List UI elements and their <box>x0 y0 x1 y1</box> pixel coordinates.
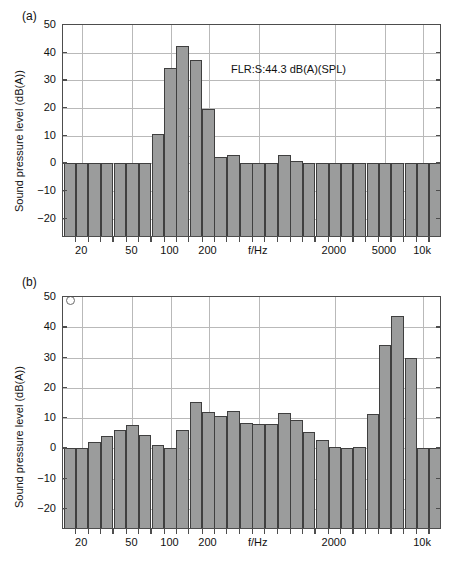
x-axis-tick-mark <box>352 237 353 242</box>
bar <box>88 163 101 237</box>
panel-b-label: (b) <box>22 276 37 288</box>
bar <box>202 412 215 529</box>
bar <box>139 163 152 237</box>
x-axis-tick-mark <box>328 529 329 534</box>
x-axis-tick-label: 10k <box>413 537 431 548</box>
y-axis-tick-mark <box>62 24 67 25</box>
x-axis-tick-mark <box>75 529 76 534</box>
bar <box>164 448 177 529</box>
x-axis-tick-label: 100 <box>160 537 178 548</box>
y-axis-tick-mark <box>436 135 441 136</box>
y-axis-tick-label: 40 <box>26 47 56 58</box>
x-axis-tick-mark <box>340 237 341 242</box>
bar <box>126 425 139 529</box>
bar <box>214 157 227 237</box>
bar <box>64 448 77 529</box>
x-axis-tick-mark <box>138 237 139 242</box>
x-axis-title: f/Hz <box>248 537 268 548</box>
bar <box>341 163 354 237</box>
bar <box>190 402 203 529</box>
bar <box>265 163 278 237</box>
x-axis-tick-mark <box>378 529 379 534</box>
x-axis-tick-mark <box>88 237 89 242</box>
x-axis-tick-mark <box>100 529 101 534</box>
x-axis-tick-label: 50 <box>125 245 137 256</box>
bar <box>126 163 139 237</box>
bar <box>152 134 165 237</box>
x-axis-tick-mark <box>188 529 189 534</box>
bar <box>214 416 227 529</box>
y-axis-tick-mark <box>62 447 67 448</box>
x-axis-tick-mark <box>314 237 315 242</box>
bar <box>353 447 366 529</box>
bar <box>114 163 127 237</box>
y-axis-tick-label: 20 <box>26 382 56 393</box>
y-axis-tick-mark <box>436 296 441 297</box>
bar <box>290 420 303 529</box>
x-axis-title: f/Hz <box>248 245 268 256</box>
x-axis-tick-label: 200 <box>198 537 216 548</box>
y-axis-tick-mark <box>62 218 67 219</box>
y-axis-tick-label: −10 <box>26 473 56 484</box>
x-axis-tick-mark <box>176 529 177 534</box>
bar <box>152 445 165 529</box>
x-axis-tick-mark <box>390 237 391 242</box>
bar <box>278 413 291 529</box>
y-axis-tick-mark <box>436 79 441 80</box>
x-axis-tick-label: 200 <box>198 245 216 256</box>
panel-b-plot-area <box>62 296 441 529</box>
bar <box>176 430 189 529</box>
x-axis-tick-mark <box>188 237 189 242</box>
bar <box>303 432 316 529</box>
y-axis-tick-mark <box>436 162 441 163</box>
x-axis-tick-mark <box>290 529 291 534</box>
x-axis-tick-label: 2000 <box>322 537 346 548</box>
bar <box>190 60 203 237</box>
bar <box>329 163 342 237</box>
x-axis-tick-mark <box>126 237 127 242</box>
y-axis-tick-mark <box>436 107 441 108</box>
y-axis-tick-mark <box>62 357 67 358</box>
x-axis-tick-mark <box>365 237 366 242</box>
panel-a-plot-area <box>62 24 441 237</box>
bar <box>379 163 392 237</box>
x-axis-tick-mark <box>100 237 101 242</box>
chart-panel-b: (b) Sound pressure level (dB(A)) FLR:S:4… <box>0 268 461 561</box>
y-axis-tick-mark <box>62 326 67 327</box>
y-axis-tick-mark <box>62 135 67 136</box>
y-axis-tick-label: 50 <box>26 291 56 302</box>
bar <box>429 448 441 529</box>
y-axis-tick-mark <box>436 218 441 219</box>
y-axis-tick-mark <box>62 190 67 191</box>
x-axis-tick-mark <box>428 529 429 534</box>
bar <box>391 163 404 237</box>
chart-panel-a: (a) Sound pressure level (dB(A)) FLR:S:4… <box>0 0 461 268</box>
y-axis-tick-mark <box>62 508 67 509</box>
y-axis-tick-mark <box>62 52 67 53</box>
x-axis-tick-mark <box>226 529 227 534</box>
bar <box>101 163 114 237</box>
panel-a-y-axis-title: Sound pressure level (dB(A)) <box>13 70 25 212</box>
y-axis-tick-mark <box>436 24 441 25</box>
bar <box>353 163 366 237</box>
bar <box>202 109 215 237</box>
bar <box>88 442 101 529</box>
y-axis-tick-mark <box>62 107 67 108</box>
x-axis-tick-mark <box>239 529 240 534</box>
x-axis-tick-label: 2000 <box>322 245 346 256</box>
x-axis-tick-mark <box>277 237 278 242</box>
x-axis-tick-mark <box>214 529 215 534</box>
bar <box>164 68 177 237</box>
y-axis-tick-mark <box>436 447 441 448</box>
x-axis-tick-mark <box>264 529 265 534</box>
x-axis-tick-mark <box>150 529 151 534</box>
panel-a-annotation: FLR:S:44.3 dB(A)(SPL) <box>231 63 346 75</box>
x-axis-tick-mark <box>328 237 329 242</box>
x-axis-tick-mark <box>264 237 265 242</box>
bar <box>227 155 240 238</box>
x-axis-tick-mark <box>252 237 253 242</box>
bar <box>240 423 253 529</box>
x-axis-tick-mark <box>202 237 203 242</box>
y-axis-tick-mark <box>62 387 67 388</box>
x-axis-tick-mark <box>150 237 151 242</box>
